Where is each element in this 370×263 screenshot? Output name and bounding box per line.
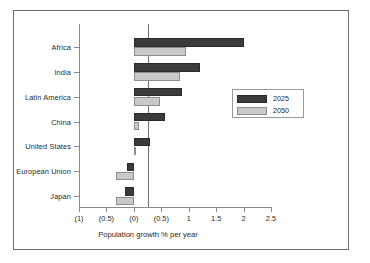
bar-2025-latin-america bbox=[134, 88, 182, 97]
bar-2025-africa bbox=[134, 38, 244, 47]
chart-figure: AfricaIndiaLatin AmericaChinaUnited Stat… bbox=[0, 0, 370, 263]
bar-2025-india bbox=[134, 63, 200, 72]
bar-2050-india bbox=[134, 72, 180, 81]
category-tick bbox=[74, 97, 79, 98]
legend-label-2025: 2025 bbox=[273, 94, 289, 103]
x-tick bbox=[161, 207, 162, 212]
category-label: China bbox=[51, 117, 71, 126]
category-tick bbox=[74, 47, 79, 48]
category-tick bbox=[74, 72, 79, 73]
x-tick bbox=[106, 207, 107, 212]
x-tick bbox=[79, 207, 80, 212]
bar-2025-china bbox=[134, 113, 165, 122]
x-tick-label: 1 bbox=[187, 214, 191, 223]
x-tick-label: 2 bbox=[242, 214, 246, 223]
x-tick bbox=[271, 207, 272, 212]
category-tick bbox=[74, 171, 79, 172]
bar-2050-european-union bbox=[116, 172, 134, 181]
category-label: India bbox=[54, 67, 71, 76]
dark-swatch-icon bbox=[237, 95, 267, 103]
x-tick bbox=[216, 207, 217, 212]
legend-label-2050: 2050 bbox=[273, 106, 289, 115]
category-label: European Union bbox=[16, 167, 71, 176]
category-tick bbox=[74, 146, 79, 147]
bar-2025-united-states bbox=[134, 138, 150, 147]
x-tick-label: 1.5 bbox=[211, 214, 221, 223]
y-axis-line bbox=[79, 24, 80, 207]
x-tick-label: (0.5) bbox=[99, 214, 114, 223]
x-tick bbox=[134, 207, 135, 212]
category-label: Japan bbox=[50, 192, 71, 201]
category-tick bbox=[74, 122, 79, 123]
bar-2050-africa bbox=[134, 47, 186, 56]
category-label: Africa bbox=[52, 42, 72, 51]
bar-2050-united-states bbox=[134, 147, 136, 156]
x-axis-title: Population growth % per year bbox=[33, 230, 263, 239]
category-label: Latin America bbox=[25, 92, 71, 101]
x-axis-line bbox=[79, 207, 271, 208]
bar-2050-latin-america bbox=[134, 97, 160, 106]
category-tick bbox=[74, 196, 79, 197]
chart-legend: 2025 2050 bbox=[232, 89, 304, 118]
x-tick bbox=[189, 207, 190, 212]
x-tick bbox=[244, 207, 245, 212]
light-swatch-icon bbox=[237, 107, 267, 115]
x-tick-label: (1) bbox=[74, 214, 83, 223]
x-tick-label: (0.5) bbox=[154, 214, 169, 223]
category-label: United States bbox=[25, 142, 71, 151]
bar-2025-european-union bbox=[127, 163, 134, 172]
legend-entry-2050: 2050 bbox=[237, 106, 289, 115]
bar-2025-japan bbox=[125, 187, 134, 196]
bar-2050-china bbox=[134, 122, 139, 131]
legend-entry-2025: 2025 bbox=[237, 94, 289, 103]
x-tick-label: 2.5 bbox=[266, 214, 276, 223]
bar-2050-japan bbox=[116, 197, 134, 206]
x-tick-label: (0) bbox=[129, 214, 138, 223]
